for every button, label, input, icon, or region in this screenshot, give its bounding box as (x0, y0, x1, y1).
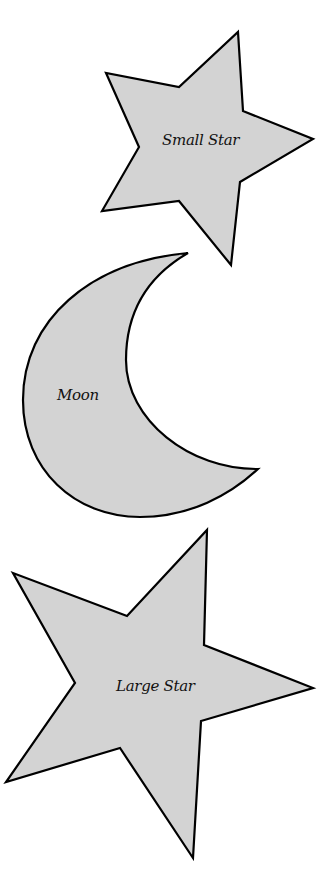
small-star-label: Small Star (162, 131, 239, 149)
moon-label: Moon (57, 386, 99, 404)
moon-shape (23, 253, 258, 517)
large-star-label: Large Star (116, 677, 195, 695)
